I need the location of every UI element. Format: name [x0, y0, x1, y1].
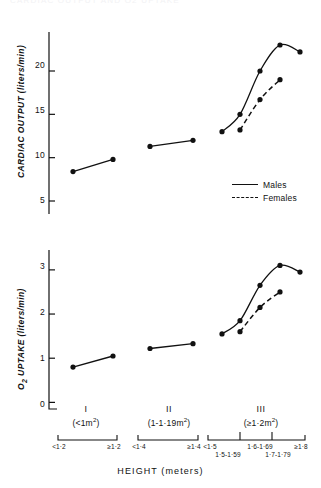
group-area-ii-suffix: ): [187, 418, 190, 428]
data-point: [110, 353, 115, 358]
group-area-iii-suffix: ): [275, 418, 278, 428]
subcat-iii-1: <1·5: [198, 443, 222, 450]
series-line-males-group-ii: [150, 140, 193, 146]
data-point: [257, 68, 262, 73]
group-area-i-prefix: (<1m: [72, 418, 92, 428]
data-point: [257, 97, 262, 102]
data-point: [147, 346, 152, 351]
series-line-males-group-i: [73, 159, 113, 171]
group-area-iii-prefix: (≥1·2m: [244, 418, 272, 428]
data-point: [237, 112, 242, 117]
group-roman-ii: II: [128, 404, 210, 414]
data-point: [70, 364, 75, 369]
group-label-ii: II (1-1·19m2): [128, 404, 210, 428]
data-point: [219, 129, 224, 134]
figure-container: CARDIAC OUTPUT AND O2 UPTAKE CARDIAC OUT…: [0, 0, 321, 488]
axis-bracket: [138, 435, 198, 440]
axis-bracket: [208, 435, 305, 440]
subcat-i-1: <1·2: [47, 443, 71, 450]
data-point: [277, 42, 282, 47]
line-solid-icon: [232, 181, 258, 189]
subcat-ii-1: <1·4: [127, 443, 151, 450]
data-point: [297, 269, 302, 274]
data-series-layer: [70, 42, 302, 369]
data-point: [257, 305, 262, 310]
legend-item-females: Females: [232, 191, 297, 204]
data-point: [277, 77, 282, 82]
x-axis-title: HEIGHT (meters): [0, 466, 321, 476]
subcat-iii-5: ≥1·8: [288, 443, 314, 450]
data-point: [237, 318, 242, 323]
line-dashed-icon: [232, 194, 258, 202]
subcat-i-2: ≥1·2: [101, 443, 127, 450]
x-axis-bracket-layer: [58, 432, 305, 440]
o2-y-axis-spine: [49, 250, 57, 409]
data-point: [277, 289, 282, 294]
series-line-males-group-iii: [222, 265, 300, 334]
data-point: [219, 331, 224, 336]
data-point: [190, 341, 195, 346]
legend-item-males: Males: [232, 178, 297, 191]
cardiac-y-axis-ticks: [49, 71, 55, 201]
group-roman-iii: III: [206, 404, 316, 414]
series-line-males-group-iii: [222, 44, 300, 131]
group-area-iii: (≥1·2m2): [206, 416, 316, 428]
data-point: [110, 157, 115, 162]
data-point: [257, 283, 262, 288]
o2-y-axis-ticks: [49, 270, 55, 403]
legend-label-females: Females: [263, 193, 297, 203]
group-roman-i: I: [48, 404, 124, 414]
legend-label-males: Males: [263, 180, 287, 190]
data-point: [237, 329, 242, 334]
data-point: [190, 138, 195, 143]
data-point: [70, 169, 75, 174]
subcat-iii-4: 1·7-1·79: [258, 451, 298, 458]
group-label-i: I (<1m2): [48, 404, 124, 428]
group-area-i-suffix: ): [96, 418, 99, 428]
axis-bracket: [58, 435, 117, 440]
group-area-ii-prefix: (1-1·19m: [148, 418, 184, 428]
group-area-ii: (1-1·19m2): [128, 416, 210, 428]
data-point: [297, 49, 302, 54]
series-line-males-group-i: [73, 356, 113, 367]
subcat-iii-2: 1·5-1·59: [208, 451, 248, 458]
series-line-males-group-ii: [150, 344, 193, 349]
data-point: [277, 263, 282, 268]
subcat-iii-3: 1·6-1·69: [240, 443, 280, 450]
group-label-iii: III (≥1·2m2): [206, 404, 316, 428]
series-line-females-group-iii: [240, 80, 280, 130]
legend: Males Females: [232, 178, 297, 204]
data-point: [237, 127, 242, 132]
group-area-i: (<1m2): [48, 416, 124, 428]
data-point: [147, 144, 152, 149]
